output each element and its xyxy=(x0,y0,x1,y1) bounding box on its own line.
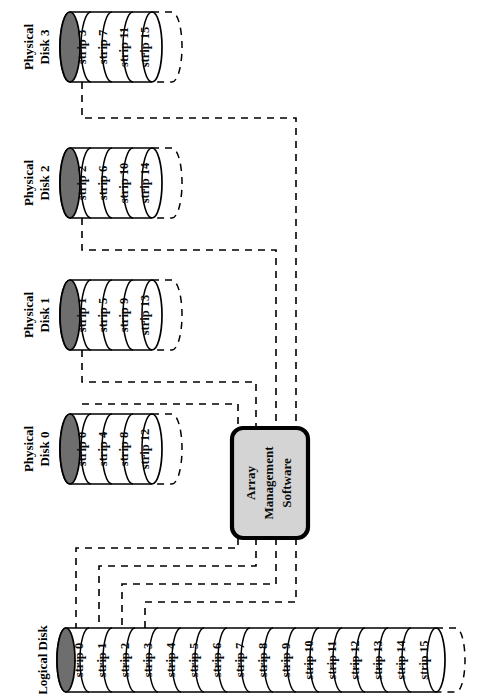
disk0-title-line2: Disk 0 xyxy=(37,431,52,466)
logical-strip-0: strip 0 xyxy=(72,643,86,677)
disk3-strip-1: strip 7 xyxy=(96,30,110,64)
connector-logical-strip-3 xyxy=(145,538,296,628)
ams-label-line1: Array xyxy=(243,466,258,500)
ams-label-line3: Software xyxy=(279,458,294,508)
disk1-title-line1: Physical xyxy=(21,292,36,339)
logical-disk-title: Logical Disk xyxy=(35,624,50,694)
logical-strip-2: strip 2 xyxy=(118,643,132,677)
disk2-strip-3: strip 14 xyxy=(138,162,152,203)
raid-data-mapping-diagram: Physical Disk 3 strip 3 strip 7 strip 11… xyxy=(0,0,496,694)
disk2-strip-0: strip 2 xyxy=(75,166,89,200)
physical-disk-3: Physical Disk 3 strip 3 strip 7 strip 11… xyxy=(21,12,182,82)
ams-label-line2: Management xyxy=(261,446,276,520)
connectors-physical-to-ams xyxy=(82,82,296,428)
logical-strip-9: strip 9 xyxy=(279,643,293,677)
logical-strip-13: strip 13 xyxy=(371,641,385,680)
logical-strip-15: strip 15 xyxy=(417,641,431,680)
disk2-strip-2: strip 10 xyxy=(117,163,131,204)
connector-logical-strip-0 xyxy=(76,538,238,628)
logical-strip-4: strip 4 xyxy=(164,642,178,677)
disk1-strip-2: strip 9 xyxy=(117,298,131,332)
disk0-title-line1: Physical xyxy=(21,426,36,473)
disk3-strip-0: strip 3 xyxy=(75,30,89,64)
disk2-title-line2: Disk 2 xyxy=(37,165,52,200)
disk3-title-line1: Physical xyxy=(21,24,36,71)
logical-disk: Logical Disk strip 0 strip 1 strip 2 str… xyxy=(35,624,465,694)
disk2-title-line1: Physical xyxy=(21,160,36,207)
logical-strip-3: strip 3 xyxy=(141,643,155,677)
disk1-strip-1: strip 5 xyxy=(96,298,110,332)
disk0-strip-1: strip 4 xyxy=(96,431,110,466)
array-management-software-box: Array Management Software xyxy=(232,428,308,538)
logical-strip-11: strip 11 xyxy=(325,641,339,679)
logical-strip-12: strip 12 xyxy=(348,641,362,680)
disk1-title-line2: Disk 1 xyxy=(37,297,52,332)
physical-disk-2: Physical Disk 2 strip 2 strip 6 strip 10… xyxy=(21,148,182,218)
connector-disk3 xyxy=(82,82,296,428)
disk1-strip-3: strip 13 xyxy=(138,295,152,336)
disk0-strip-0: strip 0 xyxy=(75,432,89,466)
disk3-strip-3: strip 15 xyxy=(138,27,152,68)
connectors-ams-to-logical xyxy=(76,538,296,628)
diagram-canvas: Physical Disk 3 strip 3 strip 7 strip 11… xyxy=(0,0,496,694)
logical-strip-5: strip 5 xyxy=(187,643,201,677)
disk0-strip-3: strip 12 xyxy=(138,429,152,470)
disk1-strip-0: strip 1 xyxy=(75,298,89,332)
physical-disk-0: Physical Disk 0 strip 0 strip 4 strip 8 … xyxy=(21,414,182,484)
logical-strip-10: strip 10 xyxy=(302,641,316,680)
disk2-strip-1: strip 6 xyxy=(96,166,110,200)
logical-disk-body xyxy=(57,628,445,692)
disk3-title-line2: Disk 3 xyxy=(37,29,52,65)
connector-logical-strip-1 xyxy=(99,538,256,628)
logical-strip-1: strip 1 xyxy=(95,643,109,677)
physical-disk-1: Physical Disk 1 strip 1 strip 5 strip 9 … xyxy=(21,280,182,350)
logical-strip-7: strip 7 xyxy=(233,643,247,677)
disk0-strip-2: strip 8 xyxy=(117,432,131,466)
disk3-strip-2: strip 11 xyxy=(117,27,131,67)
logical-strip-8: strip 8 xyxy=(256,643,270,677)
logical-strip-14: strip 14 xyxy=(394,641,408,680)
logical-strip-6: strip 6 xyxy=(210,643,224,677)
